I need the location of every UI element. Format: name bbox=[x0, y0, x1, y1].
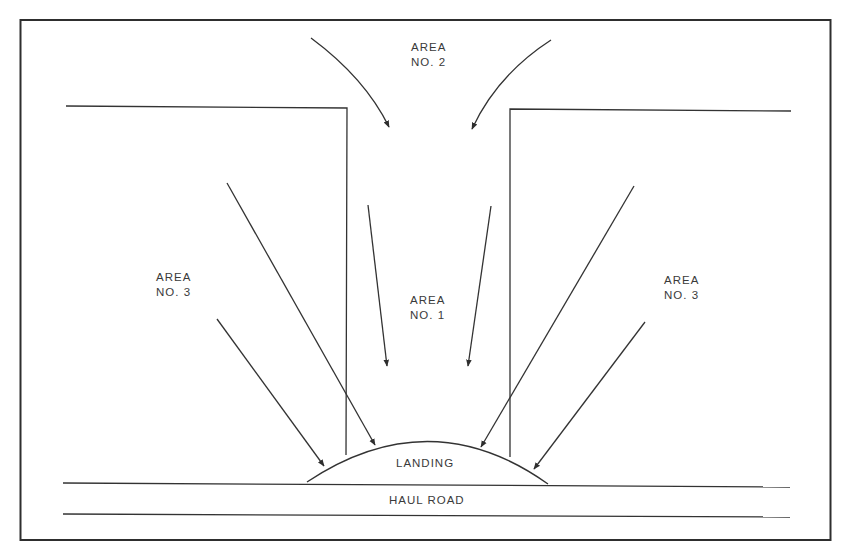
area2-right-arrow bbox=[472, 40, 551, 129]
skidding-pattern-diagram: AREA NO. 2 AREA NO. 1 AREA NO. 3 AREA NO… bbox=[0, 0, 846, 555]
outer-left-arrow bbox=[217, 319, 324, 466]
area1-label: AREA NO. 1 bbox=[410, 293, 445, 323]
outer-right-arrow bbox=[534, 322, 645, 469]
area2-left-arrow bbox=[311, 38, 389, 127]
diagram-canvas bbox=[0, 0, 846, 555]
area2-label-line1: AREA bbox=[411, 40, 446, 55]
right-unit-boundary bbox=[510, 109, 791, 457]
left-unit-boundary bbox=[66, 106, 347, 455]
inner-right-arrow bbox=[481, 186, 634, 447]
area1-label-line1: AREA bbox=[410, 293, 445, 308]
area3-right-label-line1: AREA bbox=[664, 273, 699, 288]
area3-right-label-line2: NO. 3 bbox=[664, 288, 699, 303]
area3-left-label: AREA NO. 3 bbox=[156, 270, 191, 300]
haul-road-upper-edge bbox=[63, 483, 790, 487]
area3-left-label-line2: NO. 3 bbox=[156, 285, 191, 300]
area1-label-line2: NO. 1 bbox=[410, 308, 445, 323]
haul-road-label: HAUL ROAD bbox=[389, 493, 465, 508]
area3-left-label-line1: AREA bbox=[156, 270, 191, 285]
area3-right-label: AREA NO. 3 bbox=[664, 273, 699, 303]
haul-road-lower-edge bbox=[63, 514, 790, 517]
area1-right-arrow bbox=[468, 206, 491, 366]
inner-left-arrow bbox=[227, 183, 375, 445]
area2-label: AREA NO. 2 bbox=[411, 40, 446, 70]
area1-left-arrow bbox=[368, 205, 387, 366]
area2-label-line2: NO. 2 bbox=[411, 55, 446, 70]
landing-label: LANDING bbox=[396, 456, 454, 471]
